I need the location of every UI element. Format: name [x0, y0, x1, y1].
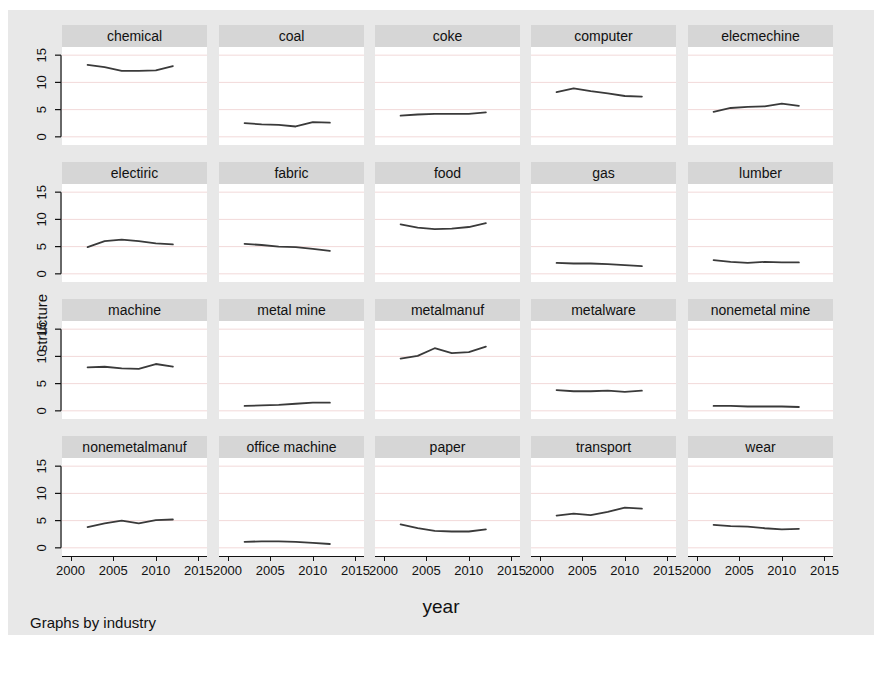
- x-axis-spine: [531, 556, 676, 557]
- plot-svg: [62, 47, 207, 145]
- x-axis-tick: [71, 556, 72, 561]
- plot-area: [688, 321, 833, 419]
- y-axis-row-1: 051015: [16, 184, 62, 282]
- x-tick-label: 2015: [341, 563, 370, 578]
- plot-svg: [375, 321, 520, 419]
- svg-text:15: 15: [35, 322, 50, 336]
- facet-panel-nonemetal-mine: nonemetal mine: [688, 299, 833, 419]
- panel-title: elecmechine: [721, 29, 800, 43]
- plot-svg: [62, 184, 207, 282]
- plot-area: [531, 184, 676, 282]
- x-axis-tick: [697, 556, 698, 561]
- plot-area: [62, 47, 207, 145]
- panel-title: coal: [279, 29, 305, 43]
- plot-svg: [688, 184, 833, 282]
- plot-area: [375, 458, 520, 556]
- svg-text:10: 10: [35, 349, 50, 363]
- svg-text:5: 5: [35, 380, 50, 387]
- series-line: [557, 263, 642, 266]
- plot-svg: [219, 184, 364, 282]
- svg-text:5: 5: [35, 106, 50, 113]
- x-tick-label: 2015: [653, 563, 682, 578]
- x-tick-label: 2000: [213, 563, 242, 578]
- plot-svg: [375, 184, 520, 282]
- facet-panel-machine: machine: [62, 299, 207, 419]
- series-line: [88, 240, 173, 248]
- series-line: [557, 508, 642, 516]
- panel-title: coke: [433, 29, 463, 43]
- panel-header: elecmechine: [688, 25, 833, 47]
- panel-header: coke: [375, 25, 520, 47]
- panel-title: gas: [592, 166, 615, 180]
- figure-canvas: structure chemicalcoalcokecomputerelecme…: [0, 0, 889, 682]
- plot-svg: [62, 321, 207, 419]
- facet-panel-transport: transport: [531, 436, 676, 556]
- x-tick-label: 2005: [256, 563, 285, 578]
- panel-header: metalmanuf: [375, 299, 520, 321]
- facet-panel-metal-mine: metal mine: [219, 299, 364, 419]
- plot-area: [219, 184, 364, 282]
- plot-area: [375, 184, 520, 282]
- plot-svg: [688, 321, 833, 419]
- plot-area: [688, 184, 833, 282]
- plot-area: [219, 47, 364, 145]
- plot-area: [531, 321, 676, 419]
- x-tick-label: 2005: [725, 563, 754, 578]
- svg-text:15: 15: [35, 459, 50, 473]
- svg-text:0: 0: [35, 407, 50, 414]
- panel-title: food: [434, 166, 461, 180]
- panel-title: lumber: [739, 166, 782, 180]
- y-axis-row-3: 051015: [16, 458, 62, 556]
- series-line: [714, 104, 799, 112]
- x-axis-spine: [219, 556, 364, 557]
- panel-title: paper: [430, 440, 466, 454]
- x-axis-tick: [426, 556, 427, 561]
- panel-header: paper: [375, 436, 520, 458]
- svg-text:5: 5: [35, 517, 50, 524]
- series-line: [88, 364, 173, 369]
- x-axis-tick: [511, 556, 512, 561]
- y-axis-row-2: 051015: [16, 321, 62, 419]
- svg-text:0: 0: [35, 133, 50, 140]
- svg-text:15: 15: [35, 48, 50, 62]
- facet-panel-coke: coke: [375, 25, 520, 145]
- panel-header: fabric: [219, 162, 364, 184]
- panel-title: transport: [576, 440, 631, 454]
- plot-svg: [62, 458, 207, 556]
- y-axis-row-0: 051015: [16, 47, 62, 145]
- plot-svg: [375, 458, 520, 556]
- series-line: [245, 122, 330, 126]
- series-line: [245, 403, 330, 406]
- x-axis-tick: [384, 556, 385, 561]
- panel-header: office machine: [219, 436, 364, 458]
- plot-area: [62, 458, 207, 556]
- panel-header: chemical: [62, 25, 207, 47]
- svg-text:15: 15: [35, 185, 50, 199]
- panel-title: metal mine: [257, 303, 325, 317]
- plot-svg: [531, 321, 676, 419]
- x-axis-tick: [469, 556, 470, 561]
- x-tick-label: 2000: [682, 563, 711, 578]
- plot-area: [219, 321, 364, 419]
- x-tick-label: 2010: [767, 563, 796, 578]
- x-axis-tick: [355, 556, 356, 561]
- x-tick-label: 2010: [298, 563, 327, 578]
- panel-header: nonemetalmanuf: [62, 436, 207, 458]
- panel-header: computer: [531, 25, 676, 47]
- svg-text:0: 0: [35, 544, 50, 551]
- panel-header: metal mine: [219, 299, 364, 321]
- facet-panel-fabric: fabric: [219, 162, 364, 282]
- panel-title: machine: [108, 303, 161, 317]
- x-axis-tick: [313, 556, 314, 561]
- plot-area: [62, 321, 207, 419]
- x-tick-label: 2015: [184, 563, 213, 578]
- plot-area: [375, 47, 520, 145]
- panel-title: metalware: [571, 303, 636, 317]
- panel-header: machine: [62, 299, 207, 321]
- series-line: [401, 112, 486, 115]
- panel-title: nonemetal mine: [711, 303, 811, 317]
- x-tick-label: 2005: [568, 563, 597, 578]
- panel-header: transport: [531, 436, 676, 458]
- plot-svg: [688, 47, 833, 145]
- x-axis-spine: [688, 556, 833, 557]
